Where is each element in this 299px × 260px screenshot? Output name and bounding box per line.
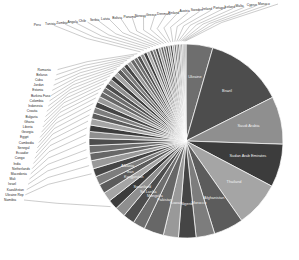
leader-line xyxy=(33,128,87,164)
slice-label-outer: Norway xyxy=(135,14,147,18)
slice-label-outer: India xyxy=(13,162,20,166)
slice-label-outer: Israel xyxy=(8,182,16,186)
slice-label-outer: Indonesia xyxy=(28,104,42,108)
leader-line xyxy=(25,174,91,195)
leader-line xyxy=(37,109,91,148)
slice-label-outer: Ghana xyxy=(24,120,34,124)
slice-label-outer: Latvia xyxy=(101,17,110,21)
leader-line xyxy=(54,25,141,52)
slice-label-outer: Tunisia xyxy=(45,22,56,26)
leader-line xyxy=(110,20,156,46)
slice-label-outer: Chile xyxy=(79,19,87,23)
slice-label-inner: Brazil xyxy=(222,88,232,93)
slice-label-outer: Kazakhstan xyxy=(7,188,24,192)
leader-line xyxy=(171,13,189,42)
pie-chart-svg: NamibiaUkraine RepKazakhstanIsraelMaliMa… xyxy=(0,0,299,260)
leader-line xyxy=(150,16,166,43)
slice-label-outer: Egypt xyxy=(20,135,29,139)
slice-label-outer: Ukraine Rep xyxy=(5,193,23,197)
slice-label-outer: Austria xyxy=(180,9,190,13)
slice-label-inner: Ukraine xyxy=(188,74,201,79)
leader-line xyxy=(31,142,86,174)
slice-label-outer: Iceland xyxy=(224,5,235,9)
slice-label-outer: Belarus xyxy=(36,73,48,77)
slice-label-outer: Finland xyxy=(168,11,179,15)
leader-line xyxy=(24,200,111,207)
slice-label-outer: Liberia xyxy=(23,125,33,129)
leader-line xyxy=(121,19,158,45)
leader-line xyxy=(76,23,147,49)
slice-label-inner: Iran xyxy=(127,169,134,174)
leader-line xyxy=(157,15,168,43)
slice-label-outer: Angola xyxy=(68,20,78,24)
slice-label-outer: Peru xyxy=(34,23,41,27)
slice-label-outer: Macedonia xyxy=(11,172,27,176)
slice-label-outer: Cambodia xyxy=(19,141,34,145)
slice-label-outer: Congo xyxy=(15,156,25,160)
slice-label-outer: Ecuador xyxy=(16,151,29,155)
slice-label-outer: Estonia xyxy=(32,88,43,92)
slice-label-inner: Thailand xyxy=(227,179,242,184)
pie-chart-figure: NamibiaUkraine RepKazakhstanIsraelMaliMa… xyxy=(0,0,299,260)
slice-label-outer: Mali xyxy=(9,177,15,181)
slice-label-outer: Bulgaria xyxy=(26,115,38,119)
slice-label-inner: Swaziland xyxy=(134,184,152,189)
slice-label-outer: Jordan xyxy=(34,83,44,87)
slice-label-outer: Malta xyxy=(236,4,244,8)
slice-label-inner: Sudan Arab Emirates xyxy=(230,153,267,158)
slice-label-outer: Bolivia xyxy=(112,16,122,20)
leader-line xyxy=(164,14,177,43)
slice-label-inner: Mongolia xyxy=(147,193,164,198)
slice-label-outer: Colombia xyxy=(30,99,44,103)
slice-label-outer: Burkina Faso xyxy=(31,94,51,98)
leader-line xyxy=(132,18,161,44)
slice-label-outer: Monaco xyxy=(258,2,270,6)
slice-label-inner: Saudi Arabia xyxy=(237,123,260,128)
slice-label-inner: Sri Lanka xyxy=(140,189,157,194)
slice-label-outer: Croatia xyxy=(27,109,38,113)
slice-label-outer: Serbia xyxy=(90,18,100,22)
slice-label-outer: Ireland xyxy=(202,7,212,11)
slice-label-inner: Albania xyxy=(121,163,135,168)
slice-label-outer: Cyprus xyxy=(247,3,258,7)
slice-label-outer: Cuba xyxy=(35,78,43,82)
slice-label-outer: Romania xyxy=(38,68,51,72)
leader-line xyxy=(65,24,144,50)
slice-label-outer: Senegal xyxy=(17,146,29,150)
slice-label-inner: Morocco xyxy=(191,200,206,205)
slice-label-outer: Zambia xyxy=(56,21,67,25)
leader-line xyxy=(28,158,87,185)
slice-label-inner: Afghanistan xyxy=(204,195,225,200)
slice-label-inner: Kyrgyzstan xyxy=(124,174,143,179)
pie-slices-group xyxy=(89,44,283,238)
leader-line xyxy=(35,121,88,158)
slice-label-inner: Nigeria xyxy=(181,201,194,206)
slice-label-outer: Netherlands xyxy=(12,167,30,171)
slice-label-outer: Namibia xyxy=(4,198,16,202)
slice-label-inner: Pakistan xyxy=(157,197,172,202)
slice-label-outer: Greece xyxy=(146,13,157,17)
slice-label-outer: Georgia xyxy=(22,130,34,134)
leader-line xyxy=(32,135,86,169)
